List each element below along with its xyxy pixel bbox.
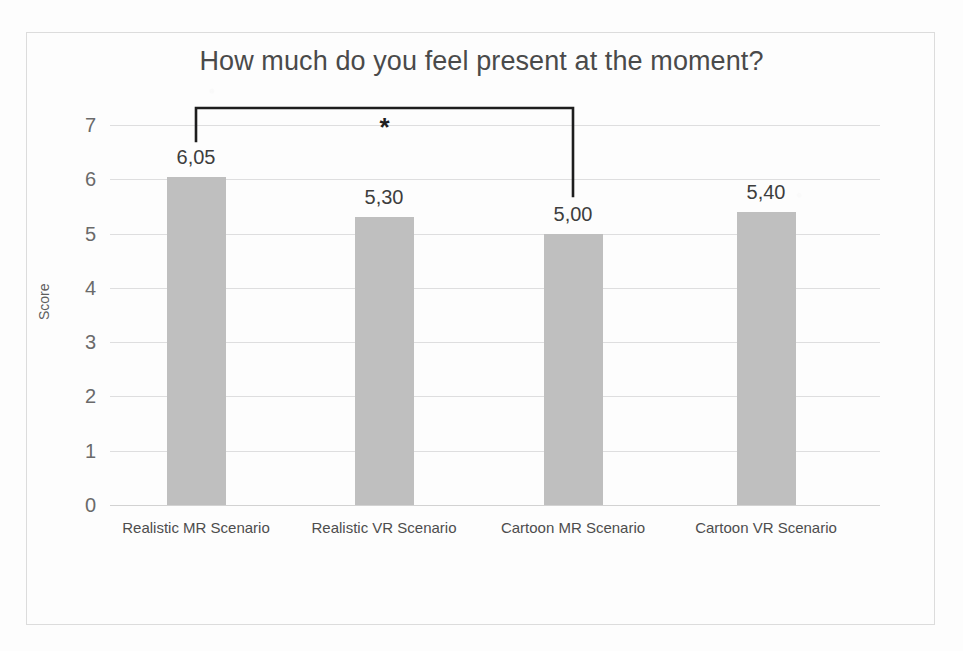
bar-value-label: 5,00: [554, 203, 593, 226]
x-axis-tick-label: Cartoon MR Scenario: [501, 519, 645, 536]
y-axis-tick-label: 2: [62, 385, 96, 408]
y-axis-tick-label: 7: [62, 114, 96, 137]
x-axis-tick-label: Cartoon VR Scenario: [695, 519, 837, 536]
significance-asterisk: *: [379, 114, 389, 140]
bar-value-label: 5,40: [747, 181, 786, 204]
chart-screenshot: How much do you feel present at the mome…: [0, 0, 963, 651]
y-axis-tick-label: 0: [62, 494, 96, 517]
chart-title: How much do you feel present at the mome…: [0, 46, 963, 77]
y-axis-tick-label: 6: [62, 168, 96, 191]
gridline: [110, 125, 880, 126]
y-axis-title: Score: [36, 283, 52, 320]
y-axis-tick-label: 3: [62, 331, 96, 354]
bar[interactable]: [737, 212, 796, 505]
bar-value-label: 5,30: [365, 186, 404, 209]
bar[interactable]: [355, 217, 414, 505]
bar[interactable]: [544, 234, 603, 505]
y-axis-tick-label: 5: [62, 222, 96, 245]
x-axis-tick-label: Realistic VR Scenario: [311, 519, 456, 536]
bar-value-label: 6,05: [177, 146, 216, 169]
y-axis-tick-label: 1: [62, 439, 96, 462]
bar[interactable]: [167, 177, 226, 505]
gridline: [110, 505, 880, 506]
y-axis-tick-label: 4: [62, 276, 96, 299]
x-axis-tick-label: Realistic MR Scenario: [122, 519, 270, 536]
